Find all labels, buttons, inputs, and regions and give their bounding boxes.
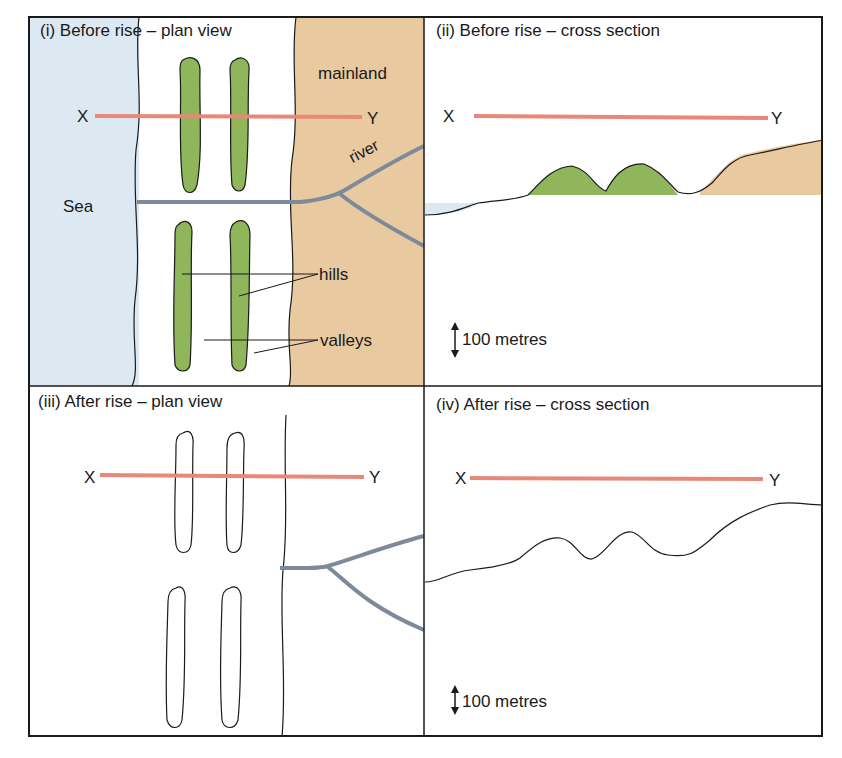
x-label: X bbox=[84, 469, 95, 486]
mainland-label: mainland bbox=[318, 65, 387, 82]
panel-2-title: (ii) Before rise – cross section bbox=[436, 22, 660, 39]
y-label: Y bbox=[771, 110, 782, 127]
x-label: X bbox=[77, 108, 88, 125]
valleys-label: valleys bbox=[320, 332, 372, 349]
hills-label: hills bbox=[319, 266, 348, 283]
panel-4-title: (iv) After rise – cross section bbox=[436, 396, 650, 413]
scale-label: 100 metres bbox=[462, 693, 547, 710]
y-label: Y bbox=[769, 472, 780, 489]
y-label: Y bbox=[367, 110, 378, 127]
x-label: X bbox=[443, 108, 454, 125]
sea-label: Sea bbox=[63, 198, 93, 215]
panel-1-title: (i) Before rise – plan view bbox=[40, 22, 232, 39]
y-label: Y bbox=[369, 469, 380, 486]
panel-3-title: (iii) After rise – plan view bbox=[38, 393, 222, 410]
x-label: X bbox=[455, 470, 466, 487]
diagram-frame bbox=[28, 16, 823, 737]
scale-label: 100 metres bbox=[462, 331, 547, 348]
